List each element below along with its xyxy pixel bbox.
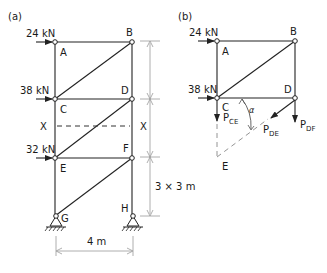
node-label-e: E — [60, 163, 66, 174]
node-label-g: G — [61, 213, 69, 224]
node-label-h: H — [121, 203, 129, 214]
truss-nodes-a — [53, 40, 136, 219]
angle-label: α — [249, 106, 255, 115]
load-label-a: 24 kN — [26, 28, 55, 39]
node-label-d: D — [121, 85, 129, 96]
height-dimension-label: 3 × 3 m — [155, 181, 195, 192]
force-arrow-pde — [271, 100, 295, 118]
panel-a: (a) X X 24 kN 38 kN 32 kN A B C D E F G — [8, 11, 195, 256]
node-label-b-c: C — [222, 102, 229, 113]
panel-b-label: (b) — [178, 11, 192, 22]
load-label-e: 32 kN — [26, 144, 55, 155]
load-label-c: 38 kN — [20, 85, 49, 96]
truss-members-a — [55, 42, 132, 216]
truss-diagram: (a) X X 24 kN 38 kN 32 kN A B C D E F G — [0, 0, 327, 273]
panel-a-label: (a) — [8, 11, 22, 22]
dashed-member-de — [217, 119, 268, 157]
node-label-b-d: D — [284, 84, 292, 95]
panel-b: (b) 24 kN 38 kN α PCE PDE PDF A B — [178, 11, 315, 172]
force-label-pce: PCE — [223, 112, 238, 126]
node-label-c: C — [60, 104, 67, 115]
node-label-a: A — [60, 47, 67, 58]
node-label-b-b: B — [290, 26, 297, 37]
load-label-b-c: 38 kN — [188, 84, 217, 95]
node-label-f: F — [123, 143, 129, 154]
height-dimension: 3 × 3 m — [140, 41, 195, 216]
section-label-right: X — [140, 121, 147, 132]
width-dimension: 4 m — [56, 236, 133, 256]
node-label-b: B — [126, 27, 133, 38]
force-label-pdf: PDF — [300, 119, 315, 133]
section-label-left: X — [40, 121, 47, 132]
node-label-b-e: E — [222, 161, 228, 172]
load-label-b-a: 24 kN — [189, 27, 218, 38]
width-dimension-label: 4 m — [87, 236, 106, 247]
force-label-pde: PDE — [263, 124, 279, 138]
node-label-b-a: A — [222, 46, 229, 57]
